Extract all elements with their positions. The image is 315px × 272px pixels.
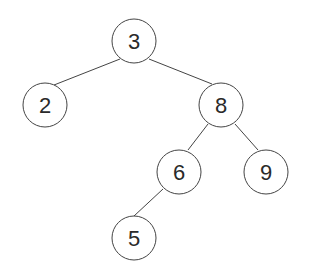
edges [54, 59, 258, 216]
tree-node-3: 3 [112, 19, 156, 63]
node-label: 3 [128, 29, 140, 54]
tree-node-2: 2 [23, 83, 67, 127]
node-label: 9 [260, 160, 272, 185]
tree-node-6: 6 [157, 150, 201, 194]
edge-8-6 [188, 124, 208, 150]
edge-3-8 [149, 59, 212, 84]
node-label: 2 [39, 93, 51, 118]
node-label: 6 [173, 160, 185, 185]
tree-node-5: 5 [112, 216, 156, 260]
node-label: 5 [128, 226, 140, 251]
tree-node-8: 8 [199, 83, 243, 127]
edge-8-9 [235, 124, 258, 150]
tree-diagram: 3 2 8 6 9 5 [0, 0, 315, 272]
edge-3-2 [54, 59, 120, 85]
node-label: 8 [215, 93, 227, 118]
tree-node-9: 9 [244, 150, 288, 194]
edge-6-5 [134, 189, 163, 216]
